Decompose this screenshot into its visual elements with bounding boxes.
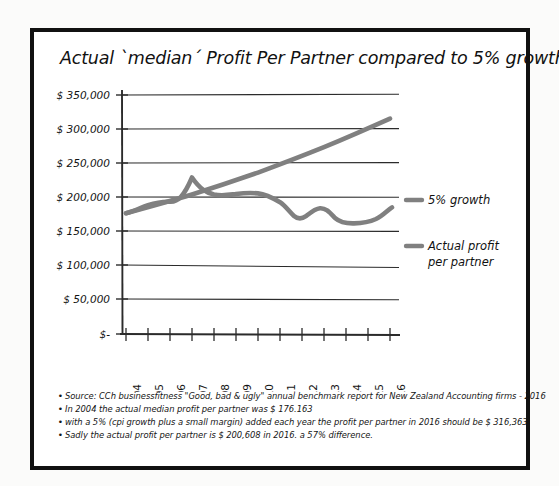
y-tick-label: $ 300,000 xyxy=(57,123,111,135)
series-line-actual-profit xyxy=(126,178,392,224)
chart-plot-area: $ 350,000 $ 300,000 $ 250,000 $ 200,000 … xyxy=(34,32,534,392)
slide-frame: Actual `median´ Profit Per Partner compa… xyxy=(30,28,530,470)
y-tick-label: $ 150,000 xyxy=(57,225,111,237)
legend-label-5pct-growth: 5% growth xyxy=(428,193,490,207)
cropped-top-text xyxy=(0,0,559,14)
gridlines xyxy=(122,94,399,300)
bullet-icon: • xyxy=(56,416,65,429)
y-tick-label: $ 200,000 xyxy=(57,191,111,203)
note-text: with a 5% (cpi growth plus a small margi… xyxy=(65,416,530,429)
bullet-icon: • xyxy=(56,429,65,442)
series-line-5pct-growth xyxy=(126,119,390,214)
list-item: • Sadly the actual profit per partner is… xyxy=(56,429,516,442)
slide-canvas: Actual `median´ Profit Per Partner compa… xyxy=(0,0,559,486)
legend-label-actual-profit: Actual profit xyxy=(427,239,499,253)
y-tick-label: $ 100,000 xyxy=(57,259,111,271)
note-text: Source: CCh businessfitness "Good, bad &… xyxy=(65,390,546,403)
notes-list: • Source: CCh businessfitness "Good, bad… xyxy=(56,390,516,442)
bullet-icon: • xyxy=(56,403,65,416)
x-axis xyxy=(120,334,400,335)
list-item: • with a 5% (cpi growth plus a small mar… xyxy=(56,416,516,429)
list-item: • In 2004 the actual median profit per p… xyxy=(56,403,516,416)
note-text: Sadly the actual profit per partner is $… xyxy=(65,429,516,442)
legend-label-actual-profit-line2: per partner xyxy=(427,255,495,269)
y-tick-label: $ 50,000 xyxy=(63,293,110,305)
y-axis-labels: $ 350,000 $ 300,000 $ 250,000 $ 200,000 … xyxy=(57,89,111,340)
list-item: • Source: CCh businessfitness "Good, bad… xyxy=(56,390,516,403)
note-text: In 2004 the actual median profit per par… xyxy=(65,403,516,416)
chart-legend: 5% growth Actual profit per partner xyxy=(406,193,499,269)
bullet-icon: • xyxy=(56,390,65,403)
y-tick-label: $ 350,000 xyxy=(57,89,111,101)
y-tick-label: $- xyxy=(100,328,111,340)
y-axis xyxy=(122,90,123,334)
y-tick-label: $ 250,000 xyxy=(57,157,111,169)
line-chart-svg: $ 350,000 $ 300,000 $ 250,000 $ 200,000 … xyxy=(34,32,534,392)
